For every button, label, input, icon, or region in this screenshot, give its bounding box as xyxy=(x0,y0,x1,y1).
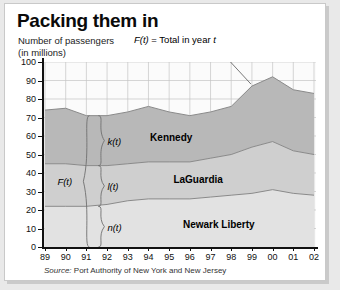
y-axis-tick-label: 80 xyxy=(14,94,36,104)
brace-label-newark: n(t) xyxy=(107,221,121,232)
page-title: Packing them in xyxy=(17,10,158,32)
y-axis-tick-label: 0 xyxy=(14,242,36,252)
y-axis-tick xyxy=(38,136,42,137)
y-axis-tick-label: 100 xyxy=(14,57,36,67)
x-axis-tick xyxy=(314,248,315,251)
source-text: Port Authority of New York and New Jerse… xyxy=(74,266,227,275)
x-axis-tick-label: 90 xyxy=(56,252,76,262)
y-axis-tick xyxy=(38,247,42,248)
x-axis-line xyxy=(42,247,318,249)
x-axis-tick xyxy=(293,248,294,251)
y-axis-tick xyxy=(38,118,42,119)
x-axis-tick xyxy=(86,248,87,251)
area-label-newark-liberty: Newark Liberty xyxy=(183,219,255,230)
x-axis-tick xyxy=(107,248,108,251)
x-axis-tick xyxy=(231,248,232,251)
x-axis-tick-label: 02 xyxy=(304,252,324,262)
source-note: Source: Port Authority of New York and N… xyxy=(44,266,226,275)
source-prefix: Source: xyxy=(44,266,72,275)
x-axis-tick xyxy=(211,248,212,251)
y-axis-tick xyxy=(38,192,42,193)
y-axis-tick xyxy=(38,62,42,63)
x-axis-tick-label: 99 xyxy=(242,252,262,262)
y-axis-tick-label: 90 xyxy=(14,76,36,86)
area-label-kennedy: Kennedy xyxy=(150,132,192,143)
x-axis-tick-label: 91 xyxy=(76,252,96,262)
x-axis-tick-label: 97 xyxy=(201,252,221,262)
callout-function-label: F(t) xyxy=(134,34,149,45)
brace-label-total: F(t) xyxy=(57,176,72,187)
brace-label-laguardia: l(t) xyxy=(107,180,118,191)
x-axis-tick xyxy=(169,248,170,251)
x-axis-tick-label: 92 xyxy=(97,252,117,262)
y-axis-tick xyxy=(38,99,42,100)
x-axis-tick-label: 01 xyxy=(283,252,303,262)
total-callout: F(t) = Total in year t xyxy=(134,34,216,45)
y-axis-tick-label: 40 xyxy=(14,168,36,178)
chart-svg xyxy=(43,62,316,247)
x-axis-tick-label: 95 xyxy=(159,252,179,262)
y-axis-line xyxy=(42,58,44,248)
y-axis-tick-label: 60 xyxy=(14,131,36,141)
y-axis-tick xyxy=(38,155,42,156)
y-axis-tick xyxy=(38,210,42,211)
y-axis-tick xyxy=(38,229,42,230)
y-axis-tick-label: 30 xyxy=(14,187,36,197)
chart-card: Packing them in Number of passengers (in… xyxy=(4,3,326,281)
area-label-laguardia: LaGuardia xyxy=(173,174,222,185)
x-axis-tick xyxy=(148,248,149,251)
y-axis-tick-label: 50 xyxy=(14,150,36,160)
x-axis-tick-label: 98 xyxy=(221,252,241,262)
x-axis-tick xyxy=(252,248,253,251)
y-axis-tick-label: 20 xyxy=(14,205,36,215)
x-axis-tick-label: 00 xyxy=(263,252,283,262)
brace-label-kennedy: k(t) xyxy=(107,135,121,146)
x-axis-tick xyxy=(45,248,46,251)
x-axis-tick xyxy=(273,248,274,251)
x-axis-tick-label: 96 xyxy=(180,252,200,262)
x-axis-tick xyxy=(190,248,191,251)
y-axis-tick xyxy=(38,81,42,82)
x-axis-tick-label: 94 xyxy=(138,252,158,262)
x-axis-tick xyxy=(128,248,129,251)
callout-variable: t xyxy=(213,34,216,45)
x-axis-tick xyxy=(66,248,67,251)
chart-plot-area xyxy=(43,62,316,247)
callout-text: = Total in year xyxy=(151,34,210,45)
x-axis-tick-label: 89 xyxy=(35,252,55,262)
y-axis-tick xyxy=(38,173,42,174)
subtitle-line-1: Number of passengers xyxy=(18,35,114,46)
y-axis-tick-label: 70 xyxy=(14,113,36,123)
x-axis-tick-label: 93 xyxy=(118,252,138,262)
y-axis-tick-label: 10 xyxy=(14,224,36,234)
